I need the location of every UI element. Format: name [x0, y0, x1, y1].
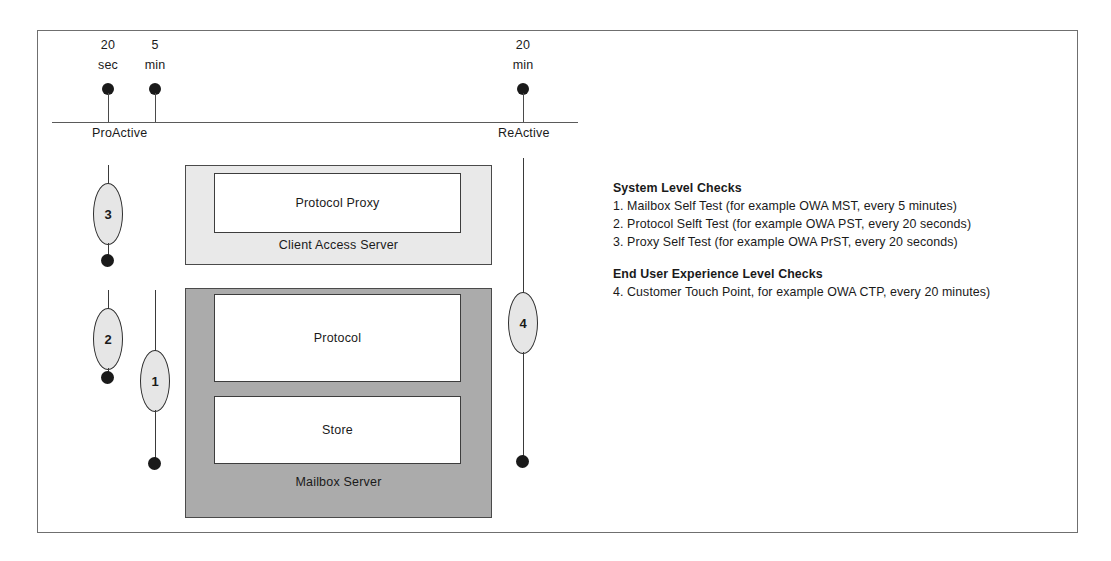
timeline-marker-unit-2: min — [503, 58, 543, 72]
legend-item-4: 4. Customer Touch Point, for example OWA… — [613, 284, 1033, 302]
check-marker-4-dot — [516, 455, 529, 468]
timeline-marker-value-0: 20 — [88, 38, 128, 52]
timeline-marker-stem-0 — [108, 93, 109, 122]
check-marker-4-line-top — [523, 158, 524, 298]
timeline-marker-value-2: 20 — [503, 38, 543, 52]
component-store: Store — [214, 396, 461, 464]
mailbox-server-caption: Mailbox Server — [186, 475, 491, 489]
timeline-marker-stem-1 — [155, 93, 156, 122]
check-marker-3-line-top — [108, 165, 109, 185]
check-marker-3-dot — [101, 254, 114, 267]
check-marker-4-line-bottom — [523, 352, 524, 462]
timeline-axis — [52, 122, 578, 123]
component-protocol: Protocol — [214, 294, 461, 382]
legend-group-end-user-level: End User Experience Level Checks 4. Cust… — [613, 266, 1033, 302]
timeline-marker-value-1: 5 — [135, 38, 175, 52]
legend: System Level Checks 1. Mailbox Self Test… — [613, 180, 1033, 302]
check-marker-2-badge: 2 — [93, 308, 123, 370]
legend-group-system-level: System Level Checks 1. Mailbox Self Test… — [613, 180, 1033, 252]
legend-item-2: 2. Protocol Selft Test (for example OWA … — [613, 216, 1033, 234]
client-access-server-caption: Client Access Server — [186, 238, 491, 252]
check-marker-1-line-top — [155, 290, 156, 352]
check-marker-2-line-top — [108, 290, 109, 310]
component-protocol-proxy: Protocol Proxy — [214, 173, 461, 233]
legend-heading-system-level: System Level Checks — [613, 180, 1033, 198]
legend-item-3: 3. Proxy Self Test (for example OWA PrST… — [613, 234, 1033, 252]
client-access-server-box: Protocol Proxy Client Access Server — [185, 165, 492, 265]
check-marker-2-dot — [101, 371, 114, 384]
legend-item-1: 1. Mailbox Self Test (for example OWA MS… — [613, 198, 1033, 216]
check-marker-1-badge: 1 — [140, 350, 170, 412]
timeline-marker-unit-0: sec — [88, 58, 128, 72]
timeline-marker-stem-2 — [523, 93, 524, 122]
timeline-marker-unit-1: min — [135, 58, 175, 72]
diagram-canvas: 20 sec 5 min 20 min ProActive ReActive P… — [0, 0, 1111, 561]
legend-heading-end-user-level: End User Experience Level Checks — [613, 266, 1033, 284]
check-marker-4-badge: 4 — [508, 292, 538, 354]
mailbox-server-box: Protocol Store Mailbox Server — [185, 288, 492, 518]
check-marker-3-badge: 3 — [93, 183, 123, 245]
check-marker-1-dot — [148, 457, 161, 470]
timeline-proactive-label: ProActive — [92, 126, 147, 140]
timeline-reactive-label: ReActive — [498, 126, 550, 140]
